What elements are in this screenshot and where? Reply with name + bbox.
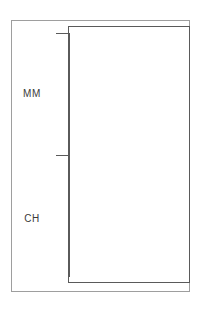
- category-label-ch: CH: [8, 213, 56, 224]
- plot-area: [68, 33, 190, 277]
- bar-mm[interactable]: [68, 33, 70, 155]
- bar-ch[interactable]: [68, 155, 70, 277]
- axis-tick-ch: [56, 155, 68, 156]
- axis-tick-mm: [56, 33, 68, 34]
- category-label-mm: MM: [8, 88, 56, 99]
- bar-chart-figure: MM CH: [0, 0, 208, 314]
